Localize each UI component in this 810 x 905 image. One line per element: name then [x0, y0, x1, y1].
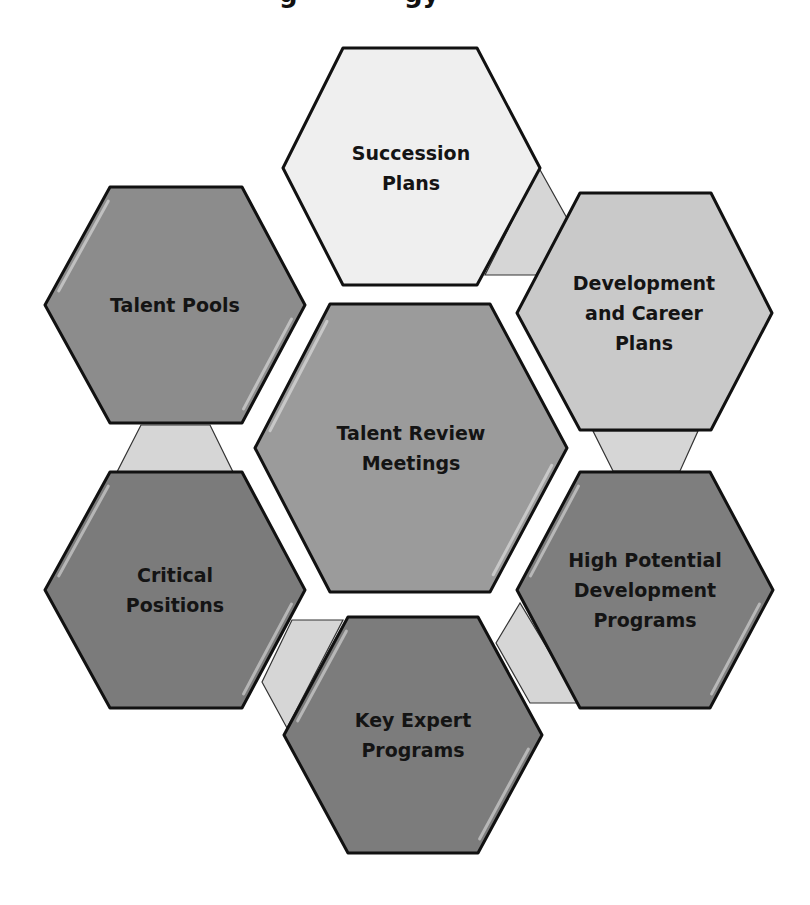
hexagon-label: High Potential: [568, 549, 722, 571]
hexagon-talent-pools: Talent Pools: [45, 187, 305, 423]
hexagon-label: Key Expert: [355, 709, 471, 731]
hexagon-label: Talent Pools: [110, 294, 240, 316]
hexagon-label: Succession: [352, 142, 470, 164]
hexagon-label: Plans: [382, 172, 440, 194]
connector-talent-pools-to-critical-positions: [117, 425, 233, 472]
hexagon-label: and Career: [585, 302, 703, 324]
connector-development-to-high-potential: [593, 431, 698, 471]
hexagon-label: Meetings: [362, 452, 461, 474]
hexagon-label: Positions: [126, 594, 224, 616]
hexagon-label: Critical: [137, 564, 213, 586]
hexagon-cycle-diagram: SuccessionPlansTalent PoolsDevelopmentan…: [0, 0, 810, 905]
hexagon-shape: [255, 304, 567, 592]
hexagon-label: Programs: [361, 739, 464, 761]
hexagon-talent-review-meetings: Talent ReviewMeetings: [255, 304, 567, 592]
hexagon-label: Development: [574, 579, 716, 601]
hexagon-label: Development: [573, 272, 715, 294]
hexagon-label: Talent Review: [337, 422, 486, 444]
hexagon-label: Plans: [615, 332, 673, 354]
hexagon-label: Programs: [593, 609, 696, 631]
